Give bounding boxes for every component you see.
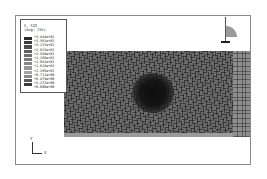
mesh-contour-plot[interactable] <box>64 51 233 137</box>
view-orientation-icon <box>224 17 238 45</box>
legend-color-swatch <box>24 83 32 87</box>
legend-averaging: (Avg: 75%) <box>24 28 46 32</box>
triad-y-label: Y <box>30 136 32 141</box>
orientation-quarter-shape <box>226 26 237 37</box>
legend-value: +1.618e+01 <box>34 64 54 68</box>
legend-variable: S, S23 <box>24 24 37 28</box>
triad-x-label: X <box>44 150 46 155</box>
legend-values: +3.884e+01+3.561e+01+3.237e+01+2.913e+01… <box>34 35 54 90</box>
mesh-extension-region <box>232 51 250 137</box>
legend-value: +0.000e+00 <box>34 85 54 89</box>
triad-x-axis <box>32 153 42 154</box>
coordinate-triad-icon: Y X <box>30 137 52 159</box>
legend-title: S, S23 (Avg: 75%) <box>24 24 46 33</box>
contour-legend: S, S23 (Avg: 75%) +3.884e+01+3.561e+01+3… <box>20 19 67 93</box>
mesh-bottom-band <box>64 133 233 137</box>
legend-value: +3.237e+01 <box>34 43 54 47</box>
legend-color-bar <box>24 37 32 87</box>
stress-concentration-spot <box>132 73 174 113</box>
orientation-base <box>221 41 230 43</box>
